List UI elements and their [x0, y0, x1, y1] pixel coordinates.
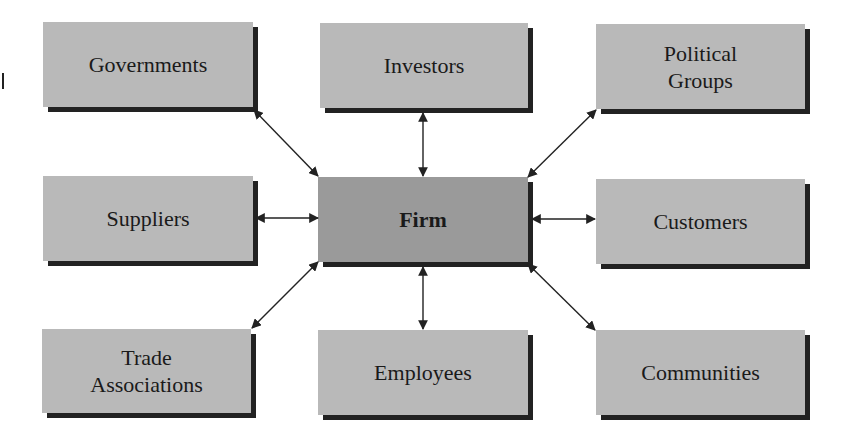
node-governments: Governments [43, 22, 253, 107]
node-customers: Customers [596, 179, 805, 264]
node-firm: Firm [318, 177, 528, 262]
node-label: Suppliers [106, 205, 189, 232]
node-label: Communities [641, 359, 760, 386]
node-label: Investors [384, 52, 465, 79]
node-political-groups: Political Groups [596, 24, 805, 109]
node-label: Employees [374, 359, 472, 386]
node-label: Trade Associations [90, 344, 202, 398]
node-employees: Employees [318, 330, 528, 415]
node-suppliers: Suppliers [43, 176, 253, 261]
node-communities: Communities [596, 330, 805, 415]
node-investors: Investors [320, 23, 528, 108]
margin-mark [2, 73, 4, 89]
node-label: Political Groups [664, 40, 737, 94]
arrow-communities [528, 264, 595, 330]
arrow-governments [254, 110, 318, 176]
arrow-political-groups [528, 110, 596, 177]
node-label: Customers [653, 208, 747, 235]
node-label: Firm [399, 206, 447, 233]
arrow-trade-associations [252, 262, 318, 328]
node-label: Governments [89, 51, 208, 78]
node-trade-associations: Trade Associations [42, 329, 251, 413]
